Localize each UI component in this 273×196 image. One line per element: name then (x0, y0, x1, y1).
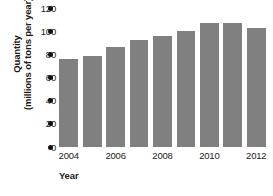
bar-2004 (59, 59, 78, 147)
x-axis-tick-label: 2004 (47, 150, 91, 163)
bar-2008 (153, 36, 172, 147)
bar-2007 (130, 40, 149, 147)
y-axis-title-line-1: Quantity (11, 35, 23, 72)
y-axis-tick-dot-icon (48, 6, 53, 11)
x-axis-tick-label: 2008 (141, 150, 185, 163)
plot-area (57, 8, 268, 147)
y-axis-title: Quantity (millions of tons per year) (9, 0, 35, 134)
x-axis-title: Year (47, 170, 91, 181)
bar-2010 (200, 23, 219, 147)
y-axis-tick-dot-icon (48, 145, 53, 150)
y-axis-tick-dot-icon (48, 29, 53, 34)
x-axis-tick-label: 2012 (234, 150, 273, 163)
bar-chart: Quantity (millions of tons per year) Yea… (0, 0, 273, 196)
y-axis-tick-dot-icon (48, 75, 53, 80)
bar-2006 (106, 47, 125, 147)
bar-2005 (83, 56, 102, 148)
x-axis-tick-label: 2010 (187, 150, 231, 163)
bar-2009 (177, 31, 196, 147)
y-axis-tick-dot-icon (48, 52, 53, 57)
bar-2012 (247, 28, 266, 147)
bar-2011 (223, 23, 242, 147)
x-axis-tick-label: 2006 (94, 150, 138, 163)
